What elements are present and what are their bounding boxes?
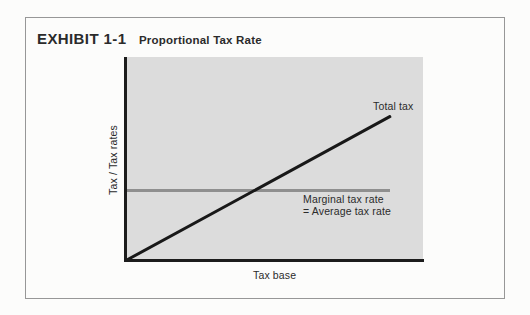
x-axis-label: Tax base bbox=[253, 269, 296, 281]
textbook-exhibit-page: EXHIBIT 1-1 Proportional Tax Rate Total … bbox=[0, 0, 530, 315]
marginal-tax-rate-label-line2: = Average tax rate bbox=[303, 205, 391, 217]
exhibit-title: Proportional Tax Rate bbox=[139, 34, 262, 46]
total-tax-label: Total tax bbox=[373, 100, 413, 112]
y-axis-line bbox=[124, 57, 127, 262]
marginal-tax-rate-label: Marginal tax rate = Average tax rate bbox=[303, 194, 391, 217]
x-axis-line bbox=[124, 259, 424, 262]
exhibit-label: EXHIBIT 1-1 bbox=[37, 30, 126, 47]
chart-plot-area bbox=[125, 57, 423, 262]
marginal-tax-rate-label-line1: Marginal tax rate bbox=[303, 193, 384, 205]
y-axis-label: Tax / Tax rates bbox=[107, 125, 119, 195]
